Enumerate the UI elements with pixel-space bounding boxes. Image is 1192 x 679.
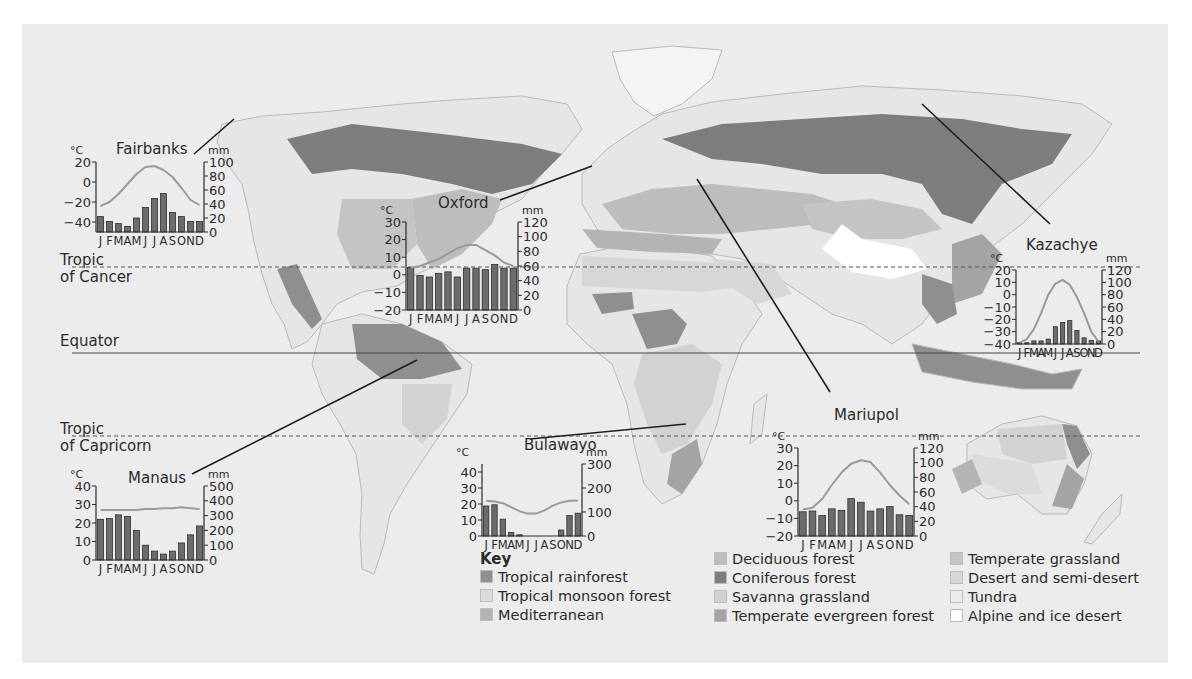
key-item: Coniferous forest — [714, 569, 856, 587]
climograph-plot: 4030201003002001000JFMAMJJASOND — [434, 430, 624, 554]
month-label: F — [106, 562, 113, 576]
month-label: O — [177, 234, 186, 248]
month-label: O — [177, 562, 186, 576]
key-label: Deciduous forest — [732, 551, 855, 567]
precip-tick-label: 40 — [209, 197, 226, 212]
key-item: Tundra — [950, 588, 1017, 606]
climograph-kazachye: Kazachye°Cmm20100−10−20−30−4012010080604… — [970, 224, 1130, 362]
month-label: J — [1053, 346, 1057, 360]
precip-tick-label: 200 — [209, 523, 234, 538]
precip-bar — [1053, 327, 1057, 344]
key-swatch — [950, 571, 963, 584]
precip-bar — [134, 218, 140, 232]
month-label: F — [106, 234, 113, 248]
key-item: Savanna grassland — [714, 588, 870, 606]
month-label: D — [573, 538, 582, 552]
precip-bar — [134, 530, 140, 560]
month-label: J — [858, 538, 862, 552]
temp-tick-label: 10 — [776, 476, 793, 491]
month-label: J — [152, 234, 156, 248]
month-label: J — [533, 538, 537, 552]
temp-tick-label: −20 — [766, 529, 793, 544]
precip-bar — [197, 222, 203, 233]
key-swatch — [480, 589, 493, 602]
month-label: D — [195, 234, 204, 248]
precip-tick-label: 400 — [209, 493, 234, 508]
precip-bar — [426, 277, 432, 310]
temp-tick-label: −20 — [64, 195, 91, 210]
precip-bar — [877, 509, 884, 536]
precip-tick-label: 20 — [919, 514, 936, 529]
precip-tick-label: 0 — [523, 303, 531, 318]
temp-tick-label: 10 — [460, 513, 477, 528]
map-panel: Tropic of Cancer Equator Tropic of Capri… — [22, 24, 1168, 663]
precip-bar — [1075, 330, 1079, 344]
climograph-plot: 200−20−40100806040200JFMAMJJASOND — [48, 120, 238, 250]
precip-bar — [408, 267, 414, 310]
precip-bar — [152, 551, 158, 560]
precip-bar — [838, 510, 845, 536]
temperature-line — [101, 507, 200, 510]
temp-tick-label: −40 — [64, 215, 91, 230]
month-label: M — [114, 234, 124, 248]
key-label: Mediterranean — [498, 607, 604, 623]
month-label: S — [877, 538, 884, 552]
climograph-oxford: Oxford°Cmm3020100−10−20120100806040200JF… — [358, 174, 558, 328]
month-label: S — [169, 562, 176, 576]
tropic-of-capricorn-line1: Tropic — [60, 421, 152, 438]
month-label: J — [1060, 346, 1064, 360]
month-label: M — [443, 312, 453, 326]
month-label: A — [124, 562, 132, 576]
key-swatch — [480, 608, 493, 621]
key-label: Tropical monsoon forest — [498, 588, 671, 604]
key-title: Key — [480, 550, 511, 568]
key-item: Mediterranean — [480, 606, 604, 624]
precip-bar — [170, 551, 176, 560]
temp-tick-label: 40 — [460, 465, 477, 480]
precip-bar — [143, 545, 149, 560]
key-swatch — [714, 552, 727, 565]
key-item: Tropical monsoon forest — [480, 587, 671, 605]
tropic-of-cancer-label: Tropic of Cancer — [60, 252, 132, 286]
precip-bar — [98, 519, 104, 560]
precip-bar — [858, 502, 865, 536]
temp-tick-label: −40 — [984, 337, 1011, 352]
key-swatch — [480, 570, 493, 583]
precip-bar — [1068, 321, 1072, 344]
month-label: A — [541, 538, 549, 552]
key-swatch — [714, 609, 727, 622]
temp-tick-label: 0 — [785, 493, 793, 508]
month-label: O — [490, 312, 499, 326]
precip-bar — [143, 208, 149, 233]
month-label: J — [455, 312, 459, 326]
month-label: A — [160, 234, 168, 248]
precip-bar — [116, 224, 122, 232]
month-label: N — [186, 234, 195, 248]
precip-tick-label: 200 — [587, 481, 612, 496]
precip-bar — [829, 509, 836, 536]
month-label: M — [132, 234, 142, 248]
month-label: S — [169, 234, 176, 248]
climograph-mariupol: Mariupol°Cmm3020100−10−20120100806040200… — [750, 402, 950, 554]
precip-bar — [179, 217, 185, 232]
month-label: M — [132, 562, 142, 576]
key-swatch — [950, 609, 963, 622]
precip-tick-label: 80 — [209, 169, 226, 184]
precip-bar — [464, 268, 470, 310]
precip-bar — [107, 222, 113, 233]
month-label: M — [114, 562, 124, 576]
temp-tick-label: 20 — [74, 516, 91, 531]
key-swatch — [714, 571, 727, 584]
month-label: M — [515, 538, 525, 552]
temperature-line — [1020, 280, 1099, 343]
new-zealand — [1084, 494, 1122, 544]
month-label: S — [549, 538, 556, 552]
temperature-line — [803, 460, 909, 509]
month-label: J — [98, 234, 102, 248]
precip-tick-label: 40 — [523, 273, 540, 288]
precip-bar — [809, 511, 816, 536]
month-label: O — [885, 538, 894, 552]
precip-bar — [484, 506, 489, 536]
key-item: Alpine and ice desert — [950, 607, 1122, 625]
temp-tick-label: 0 — [83, 553, 91, 568]
